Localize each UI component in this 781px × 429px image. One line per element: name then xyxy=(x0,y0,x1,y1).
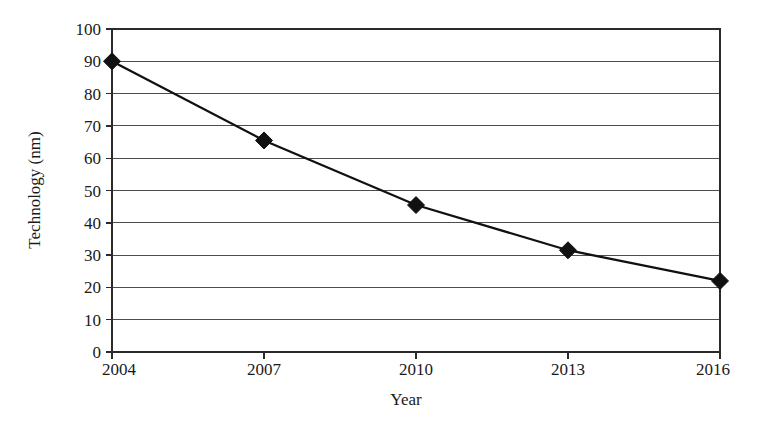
data-point-marker xyxy=(104,53,121,70)
data-point-group xyxy=(104,53,729,290)
data-point-marker xyxy=(560,242,577,259)
y-axis-title: Technology (nm) xyxy=(25,131,44,248)
x-tick-group xyxy=(112,352,720,359)
y-tick-label: 20 xyxy=(84,278,101,297)
y-tick-group xyxy=(106,29,112,352)
chart-page: 0102030405060708090100 20042007201020132… xyxy=(0,0,781,429)
x-axis-title: Year xyxy=(390,390,422,409)
y-tick-label: 90 xyxy=(84,52,101,71)
data-point-marker xyxy=(256,132,273,149)
x-tick-label: 2004 xyxy=(102,360,137,379)
data-point-marker xyxy=(712,272,729,289)
y-tick-label: 60 xyxy=(84,149,101,168)
x-axis-tick-labels: 20042007201020132016 xyxy=(102,360,730,379)
y-tick-label: 30 xyxy=(84,246,101,265)
y-tick-label: 50 xyxy=(84,182,101,201)
data-point-marker xyxy=(408,197,425,214)
line-chart: 0102030405060708090100 20042007201020132… xyxy=(0,0,781,429)
x-tick-label: 2007 xyxy=(247,360,282,379)
gridline-group xyxy=(112,61,720,319)
y-tick-label: 80 xyxy=(84,85,101,104)
x-tick-label: 2013 xyxy=(551,360,585,379)
y-tick-label: 10 xyxy=(84,311,101,330)
y-tick-label: 0 xyxy=(93,343,102,362)
y-tick-label: 40 xyxy=(84,214,101,233)
x-tick-label: 2010 xyxy=(399,360,433,379)
x-tick-label: 2016 xyxy=(696,360,730,379)
series-line-technology xyxy=(112,61,720,281)
y-axis-tick-labels: 0102030405060708090100 xyxy=(76,20,102,362)
y-tick-label: 100 xyxy=(76,20,102,39)
y-tick-label: 70 xyxy=(84,117,101,136)
